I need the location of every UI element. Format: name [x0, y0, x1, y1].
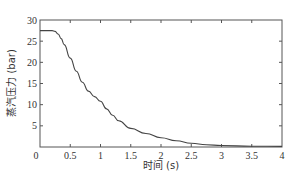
x-axis-ticks: 00.511.522.533.54 [34, 20, 285, 161]
x-tick-label: 0 [34, 150, 39, 161]
plot-border [40, 20, 282, 147]
x-tick-label: 2.5 [185, 150, 198, 161]
y-tick-label: 30 [27, 15, 37, 26]
steam-pressure-chart: 00.511.522.533.54 51015202530 时间 (s) 蒸汽压… [0, 0, 300, 176]
x-tick-label: 3.5 [246, 150, 259, 161]
y-tick-label: 20 [27, 57, 37, 68]
x-axis-label: 时间 (s) [143, 159, 179, 171]
plot-frame [40, 20, 282, 147]
x-tick-label: 4 [280, 150, 285, 161]
y-tick-label: 5 [32, 120, 37, 131]
x-tick-label: 1 [98, 150, 103, 161]
y-tick-label: 10 [27, 99, 37, 110]
y-axis-label: 蒸汽压力 (bar) [5, 49, 17, 117]
y-tick-label: 15 [27, 78, 37, 89]
y-tick-label: 25 [27, 36, 37, 47]
y-axis-ticks: 51015202530 [27, 15, 282, 132]
x-tick-label: 1.5 [125, 150, 138, 161]
data-series [40, 31, 282, 147]
x-tick-label: 3 [219, 150, 224, 161]
pressure-curve [40, 31, 282, 147]
x-tick-label: 0.5 [64, 150, 77, 161]
